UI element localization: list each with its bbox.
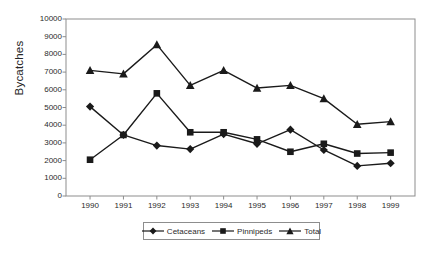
legend-label-pinnipeds: Pinnipeds: [237, 227, 272, 236]
data-point-triangle: [320, 94, 329, 102]
data-point-diamond: [387, 159, 395, 167]
data-point-square: [287, 148, 294, 155]
data-point-triangle: [153, 40, 162, 48]
data-point-square: [354, 150, 361, 157]
data-point-triangle: [219, 66, 228, 74]
legend-item-pinnipeds: Pinnipeds: [212, 226, 272, 236]
data-point-diamond: [320, 146, 328, 154]
legend-label-cetaceans: Cetaceans: [167, 227, 205, 236]
triangle-marker-icon: [279, 226, 301, 236]
series-pinnipeds: [87, 90, 394, 163]
plot-area: [0, 0, 447, 254]
data-point-square: [254, 136, 261, 143]
plot-frame: [66, 19, 415, 196]
data-point-square: [120, 132, 127, 139]
legend-label-total: Total: [304, 227, 321, 236]
data-point-square: [321, 140, 328, 147]
series-line: [90, 93, 391, 159]
data-point-square: [87, 156, 94, 163]
legend-item-cetaceans: Cetaceans: [142, 226, 205, 236]
data-point-square: [387, 149, 394, 156]
data-point-square: [154, 90, 161, 97]
chart-legend: Cetaceans Pinnipeds Total: [143, 222, 320, 240]
bycatches-line-chart: Bycatches 100009000800070006000500040003…: [0, 0, 447, 254]
data-point-diamond: [153, 141, 161, 149]
data-point-diamond: [286, 126, 294, 134]
data-point-diamond: [353, 162, 361, 170]
legend-item-total: Total: [279, 226, 321, 236]
diamond-marker-icon: [142, 226, 164, 236]
data-point-square: [187, 129, 194, 136]
series-total: [86, 40, 395, 128]
square-marker-icon: [212, 226, 234, 236]
data-point-square: [220, 129, 227, 136]
series-line: [90, 45, 391, 125]
data-point-diamond: [186, 145, 194, 153]
